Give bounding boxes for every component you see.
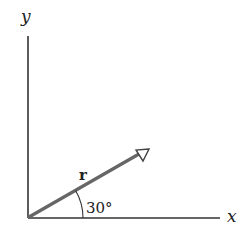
vector-label: r xyxy=(79,166,88,184)
angle-arc xyxy=(76,191,83,219)
y-axis-label: y xyxy=(20,6,31,26)
x-axis-label: x xyxy=(227,206,237,226)
vector-diagram: y x r 30° xyxy=(0,0,248,236)
angle-label: 30° xyxy=(86,199,113,217)
vector-r xyxy=(29,154,139,217)
